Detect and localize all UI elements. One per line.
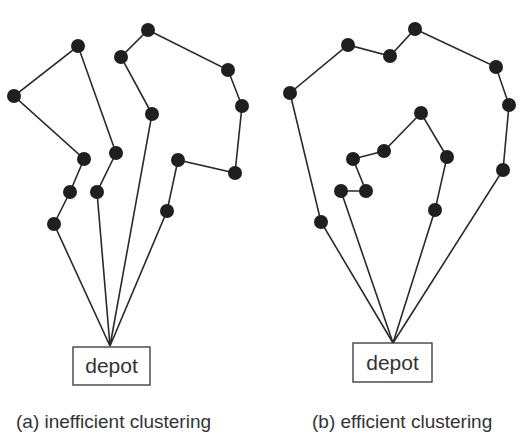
customer-node xyxy=(428,203,442,217)
customer-node xyxy=(359,184,373,198)
customer-node xyxy=(47,217,61,231)
caption-a: (a) inefficient clustering xyxy=(16,411,211,432)
customer-node xyxy=(77,152,91,166)
customer-node xyxy=(145,107,159,121)
customer-node xyxy=(7,89,21,103)
depot: depot xyxy=(73,347,150,385)
customer-node xyxy=(334,184,348,198)
customer-node xyxy=(489,60,503,74)
customer-node xyxy=(440,150,454,164)
route-line xyxy=(110,30,242,346)
customer-node xyxy=(414,106,428,120)
route-edges xyxy=(14,30,242,346)
customer-node xyxy=(314,215,328,229)
customer-node xyxy=(90,185,104,199)
customer-nodes xyxy=(7,23,249,231)
customer-node xyxy=(221,63,235,77)
customer-node xyxy=(228,166,242,180)
customer-node xyxy=(283,86,297,100)
customer-node xyxy=(63,185,77,199)
customer-node xyxy=(502,98,516,112)
depot: depot xyxy=(353,343,432,382)
customer-node xyxy=(341,38,355,52)
route-line xyxy=(290,29,509,343)
customer-node xyxy=(346,152,360,166)
panel-inefficient-clustering: depot (a) inefficient clustering xyxy=(7,23,249,432)
customer-node xyxy=(109,146,123,160)
customer-node xyxy=(114,50,128,64)
route-line xyxy=(341,113,447,343)
customer-node xyxy=(377,144,391,158)
customer-node xyxy=(141,23,155,37)
customer-node xyxy=(235,99,249,113)
depot-label: depot xyxy=(85,354,138,377)
customer-node xyxy=(71,39,85,53)
depot-label: depot xyxy=(366,351,419,374)
customer-node xyxy=(171,153,185,167)
caption-b: (b) efficient clustering xyxy=(312,411,492,432)
customer-node xyxy=(408,22,422,36)
panel-efficient-clustering: depot (b) efficient clustering xyxy=(283,22,516,432)
vehicle-routing-diagram: depot (a) inefficient clustering depot (… xyxy=(0,0,527,444)
customer-node xyxy=(383,49,397,63)
customer-node xyxy=(160,204,174,218)
customer-node xyxy=(496,163,510,177)
customer-nodes xyxy=(283,22,516,229)
route-edges xyxy=(290,29,509,343)
